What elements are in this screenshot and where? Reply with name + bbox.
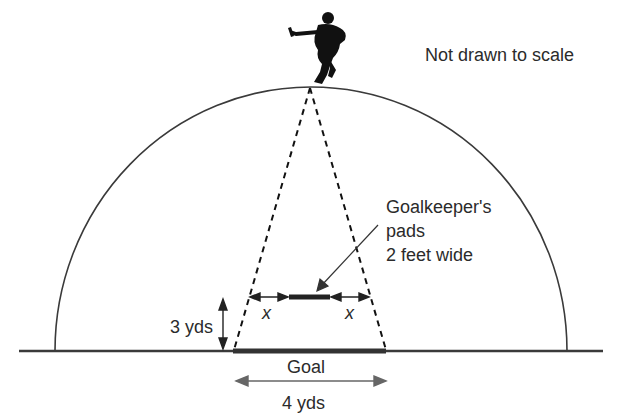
x-label-right: x — [345, 304, 354, 322]
dashed-line-left — [234, 88, 310, 350]
goal-width-label: 4 yds — [282, 394, 325, 412]
x-label-left: x — [262, 304, 271, 322]
x-arrow-left — [250, 293, 288, 301]
pads-label-line1: Goalkeeper's — [386, 195, 492, 219]
diagram-canvas: Not drawn to scale Goalkeeper's pads 2 f… — [0, 0, 617, 420]
pads-label-line3: 2 feet wide — [386, 243, 492, 267]
x-arrow-right — [331, 293, 369, 301]
hockey-player-silhouette-icon — [288, 12, 346, 84]
pads-pointer-arrow — [317, 225, 378, 291]
goal-width-arrow — [236, 376, 386, 386]
not-to-scale-note: Not drawn to scale — [425, 46, 574, 64]
distance-arrow — [219, 299, 227, 349]
goal-label: Goal — [287, 358, 325, 376]
distance-label: 3 yds — [170, 318, 213, 336]
pads-label-line2: pads — [386, 219, 492, 243]
pads-label: Goalkeeper's pads 2 feet wide — [386, 195, 492, 267]
